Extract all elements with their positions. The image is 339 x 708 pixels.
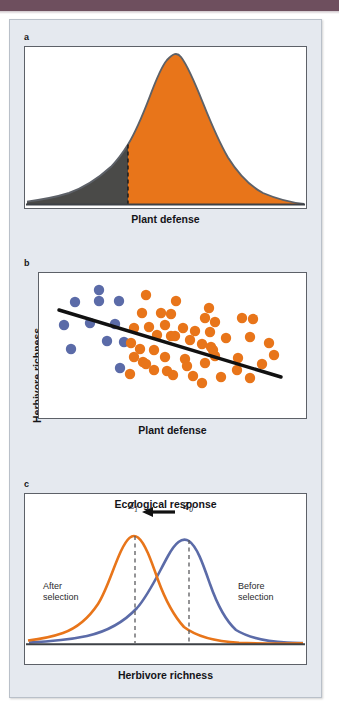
annotation-before-line1: Before [238,581,274,592]
panel-c-distributions-chart [25,494,306,664]
panel-c-title: Ecological response [25,498,306,510]
panel-a-plot-area [24,46,307,209]
panel-c-annotation-after-selection: After selection [43,581,79,603]
annotation-after-line1: After [43,581,79,592]
panel-b-scatter-chart [39,273,306,418]
panel-a-xlabel: Plant defense [24,213,307,225]
panel-b: b Herbivore richness [10,238,321,470]
annotation-before-line2: selection [238,592,274,603]
panel-c: c Z1 [10,470,321,699]
panel-a-below-threshold-fill [27,145,128,205]
panel-a-distribution-chart [25,47,306,208]
panel-c-plot-area: Z1 Z0 After selection Before selection E… [24,493,307,665]
header-band-shadow [0,11,339,14]
panel-a-above-threshold-fill [128,54,304,204]
panel-b-xlabel: Plant defense [38,424,307,436]
figure-card: a Plant defense b Herbivore richness [9,19,322,698]
panel-a-letter: a [24,32,29,42]
panel-c-xlabel: Herbivore richness [24,669,307,681]
panel-b-points-high-defense [125,290,279,388]
panel-b-letter: b [24,258,30,268]
annotation-after-line2: selection [43,592,79,603]
top-header-band [0,0,339,11]
panel-b-plot-area [38,272,307,419]
panel-c-annotation-before-selection: Before selection [238,581,274,603]
panel-a: a Plant defense [10,20,321,238]
panel-c-letter: c [24,479,29,489]
